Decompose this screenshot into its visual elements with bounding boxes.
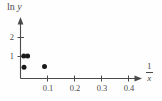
y-axis-group bbox=[18, 17, 24, 79]
data-point bbox=[22, 65, 27, 70]
y-axis-title-prefix: ln bbox=[7, 1, 15, 12]
x-tick-label-0.3: 0.3 bbox=[94, 83, 110, 93]
y-axis-title-variable: y bbox=[17, 1, 21, 12]
scatter-plot-figure: ln y 1 x 2 1 0.1 0.2 0.3 0.4 bbox=[0, 0, 162, 101]
data-point bbox=[25, 54, 30, 59]
y-tick-label-2: 2 bbox=[3, 32, 14, 42]
y-tick-label-1: 1 bbox=[3, 51, 14, 61]
x-axis-arrowhead bbox=[135, 76, 143, 82]
x-axis-title-fraction: 1 x bbox=[146, 62, 153, 83]
y-axis-arrowhead bbox=[18, 17, 24, 25]
x-axis-title: 1 x bbox=[146, 62, 153, 83]
x-tick-label-0.1: 0.1 bbox=[40, 83, 56, 93]
x-tick-label-0.4: 0.4 bbox=[121, 83, 137, 93]
x-axis-title-numerator: 1 bbox=[146, 62, 153, 72]
data-points-group bbox=[21, 54, 47, 70]
x-axis-title-denominator: x bbox=[146, 74, 153, 83]
x-axis-group bbox=[21, 76, 143, 82]
x-tick-label-0.2: 0.2 bbox=[67, 83, 83, 93]
y-axis-title: ln y bbox=[7, 2, 22, 12]
data-point bbox=[42, 64, 47, 69]
